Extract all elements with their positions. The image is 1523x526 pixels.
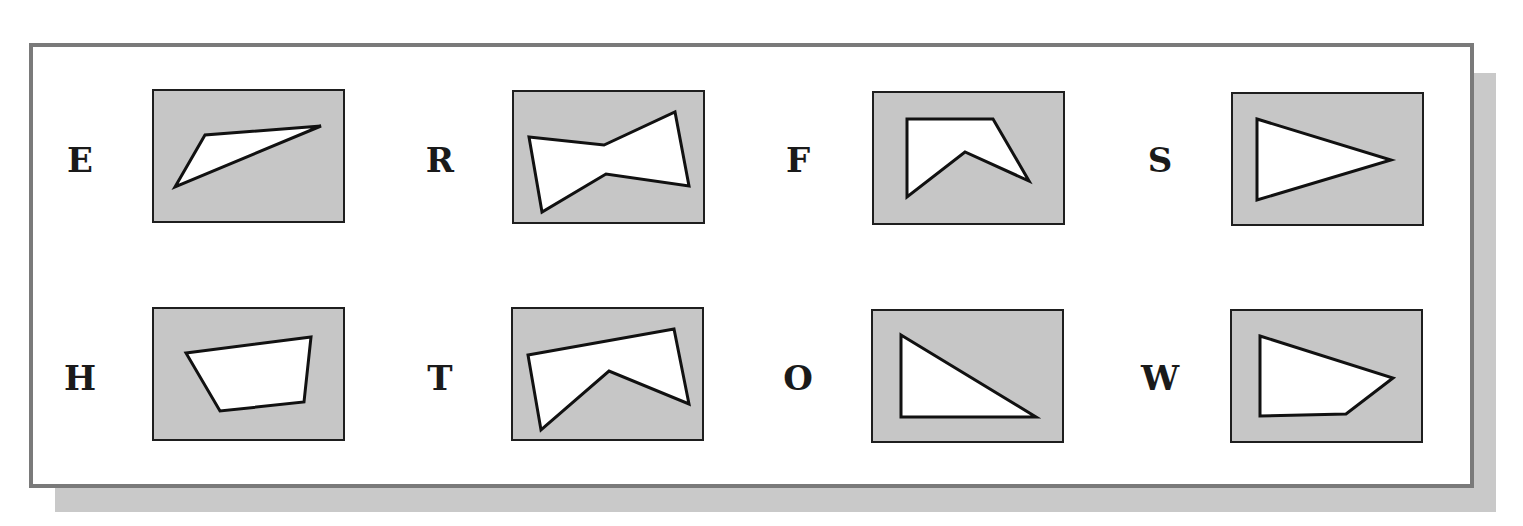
shape-box-h <box>152 307 345 441</box>
pentagon-shape-icon <box>511 307 704 441</box>
quadrilateral-shape-icon <box>1230 309 1423 443</box>
label-t: T <box>410 358 470 398</box>
label-f: F <box>768 140 828 180</box>
label-h: H <box>50 358 110 398</box>
shape-box-t <box>511 307 704 441</box>
right-triangle-shape-icon <box>871 309 1064 443</box>
triangle-shape-icon <box>152 89 345 223</box>
bowtie-shape-icon <box>512 90 705 224</box>
label-o: O <box>768 358 828 398</box>
shape-box-f <box>872 91 1065 225</box>
pentagon-shape-icon <box>872 91 1065 225</box>
label-w: W <box>1130 358 1190 398</box>
quadrilateral-shape-icon <box>152 307 345 441</box>
label-e: E <box>50 140 110 180</box>
label-r: R <box>410 140 470 180</box>
triangle-shape-icon <box>1231 92 1424 226</box>
shape-box-o <box>871 309 1064 443</box>
shape-box-e <box>152 89 345 223</box>
shape-box-s <box>1231 92 1424 226</box>
label-s: S <box>1130 140 1190 180</box>
shape-box-w <box>1230 309 1423 443</box>
shape-box-r <box>512 90 705 224</box>
